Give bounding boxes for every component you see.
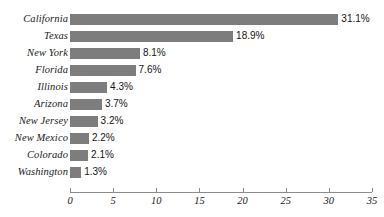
bar-chart: California31.1%Texas18.9%New York8.1%Flo… [0, 0, 384, 217]
x-axis-tick-label: 25 [266, 195, 306, 206]
bar [70, 48, 140, 59]
category-label: New Mexico [0, 130, 68, 147]
bar-container: 18.9% [70, 28, 384, 45]
x-axis-tick-label: 15 [179, 195, 219, 206]
category-label: New Jersey [0, 113, 68, 130]
x-axis-tick [372, 188, 373, 192]
category-label: Arizona [0, 96, 68, 113]
bar-container: 2.2% [70, 130, 384, 147]
bar [70, 133, 89, 144]
category-label: Florida [0, 62, 68, 79]
category-label: California [0, 11, 68, 28]
category-label: New York [0, 45, 68, 62]
x-axis-tick [70, 188, 71, 192]
category-label: Washington [0, 164, 68, 181]
bar [70, 99, 102, 110]
x-axis-tick [199, 188, 200, 192]
x-axis-tick-label: 30 [309, 195, 349, 206]
bar-container: 2.1% [70, 147, 384, 164]
category-label: Texas [0, 28, 68, 45]
bar [70, 116, 98, 127]
bar [70, 167, 81, 178]
bar-value-label: 1.3% [81, 164, 107, 181]
bar-value-label: 4.3% [107, 79, 133, 96]
category-label: Colorado [0, 147, 68, 164]
bar-value-label: 18.9% [233, 28, 264, 45]
x-axis-line [70, 192, 372, 193]
bar-value-label: 7.6% [136, 62, 162, 79]
x-axis-tick [243, 188, 244, 192]
bar-container: 4.3% [70, 79, 384, 96]
chart-row: Washington1.3% [0, 164, 384, 181]
bar-value-label: 31.1% [338, 11, 369, 28]
chart-row: Texas18.9% [0, 28, 384, 45]
chart-row: Florida7.6% [0, 62, 384, 79]
category-label: Illinois [0, 79, 68, 96]
bar-container: 3.7% [70, 96, 384, 113]
x-axis-tick-label: 5 [93, 195, 133, 206]
x-axis-tick-label: 10 [136, 195, 176, 206]
chart-row: Colorado2.1% [0, 147, 384, 164]
bar [70, 82, 107, 93]
bar-container: 7.6% [70, 62, 384, 79]
chart-row: California31.1% [0, 11, 384, 28]
bar [70, 14, 338, 25]
bar-value-label: 2.2% [89, 130, 115, 147]
bar-value-label: 3.2% [98, 113, 124, 130]
x-axis-tick [113, 188, 114, 192]
x-axis-tick [329, 188, 330, 192]
bar [70, 65, 136, 76]
bar-value-label: 8.1% [140, 45, 166, 62]
x-axis-tick [156, 188, 157, 192]
bar-container: 3.2% [70, 113, 384, 130]
bar-container: 1.3% [70, 164, 384, 181]
bar-container: 31.1% [70, 11, 384, 28]
chart-plot-area: California31.1%Texas18.9%New York8.1%Flo… [0, 11, 384, 181]
bar-value-label: 2.1% [88, 147, 114, 164]
x-axis-tick-label: 35 [352, 195, 384, 206]
chart-row: New York8.1% [0, 45, 384, 62]
bar-container: 8.1% [70, 45, 384, 62]
chart-row: Arizona3.7% [0, 96, 384, 113]
x-axis-tick-label: 20 [223, 195, 263, 206]
bar-value-label: 3.7% [102, 96, 128, 113]
bar [70, 150, 88, 161]
chart-row: Illinois4.3% [0, 79, 384, 96]
x-axis-tick-label: 0 [50, 195, 90, 206]
chart-row: New Jersey3.2% [0, 113, 384, 130]
x-axis-tick [286, 188, 287, 192]
chart-row: New Mexico2.2% [0, 130, 384, 147]
bar [70, 31, 233, 42]
